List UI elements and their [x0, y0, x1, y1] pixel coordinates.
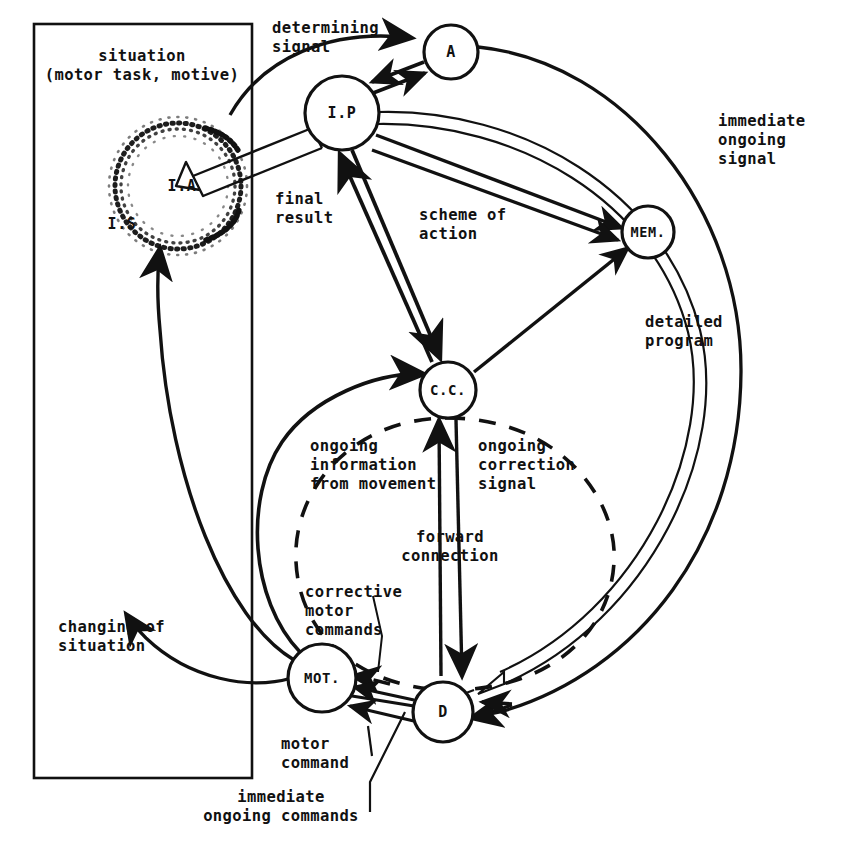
label-immediate-ongoing-signal: immediate ongoing signal — [718, 112, 806, 169]
node-label-a: A — [446, 43, 456, 61]
label-situation: situation (motor task, motive) — [45, 47, 240, 85]
label-final-result: final result — [275, 190, 333, 228]
label-corrective-motor-commands: corrective motor commands — [305, 583, 402, 640]
node-label-cc: C.C. — [430, 382, 466, 398]
label-determining-signal: determining signal — [272, 19, 379, 57]
node-label-d: D — [438, 703, 448, 721]
label-motor-command: motor command — [281, 735, 349, 773]
label-scheme-of-action: scheme of action — [419, 206, 507, 244]
node-label-is: I.S — [108, 215, 137, 233]
label-ongoing-correction: ongoing correction signal — [478, 437, 575, 494]
label-forward-connection: forward connection — [401, 528, 498, 566]
node-label-mot: MOT. — [304, 670, 340, 686]
label-immediate-ongoing-commands: immediate ongoing commands — [203, 788, 359, 826]
diagram-canvas: I.P A MEM. C.C. MOT. D I.A I.S situation… — [0, 0, 847, 857]
label-detailed-program: detailed program — [645, 313, 723, 351]
node-label-ia: I.A — [168, 177, 197, 195]
label-ongoing-information: ongoing information from movement — [310, 437, 437, 494]
node-label-ip: I.P — [328, 104, 357, 122]
node-label-mem: MEM. — [631, 224, 666, 240]
label-changing-of-situation: changing of situation — [58, 618, 165, 656]
